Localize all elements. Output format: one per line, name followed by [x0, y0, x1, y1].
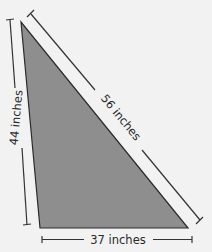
triangle-shape: [21, 22, 188, 228]
triangle-figure: 44 inches 56 inches 37 inches: [0, 0, 212, 252]
bottom-side-label: 37 inches: [90, 233, 145, 247]
left-side-label: 44 inches: [7, 89, 26, 145]
triangle-diagram: 44 inches 56 inches 37 inches: [0, 0, 212, 252]
